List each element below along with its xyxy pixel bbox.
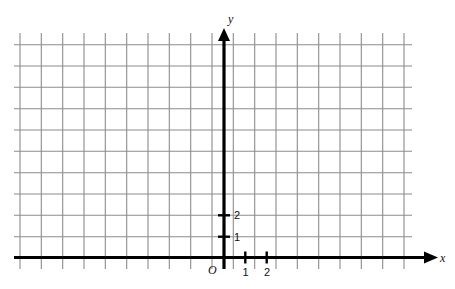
origin-label: O bbox=[208, 263, 217, 277]
y-axis-arrowhead bbox=[218, 28, 230, 41]
x-tick-label-1: 1 bbox=[243, 266, 249, 278]
y-axis-label: y bbox=[227, 12, 234, 26]
y-tick-label-2: 2 bbox=[234, 209, 240, 221]
x-axis-label: x bbox=[439, 251, 446, 265]
coordinate-plane: 1 2 1 2 O x y bbox=[0, 0, 455, 289]
y-tick-label-1: 1 bbox=[234, 231, 240, 243]
x-axis bbox=[14, 252, 438, 264]
coordinate-grid-figure: 1 2 1 2 O x y bbox=[0, 0, 455, 289]
y-axis bbox=[218, 28, 230, 269]
x-tick-label-2: 2 bbox=[264, 266, 270, 278]
grid-lines-horizontal bbox=[14, 45, 412, 237]
x-axis-arrowhead bbox=[424, 252, 438, 264]
